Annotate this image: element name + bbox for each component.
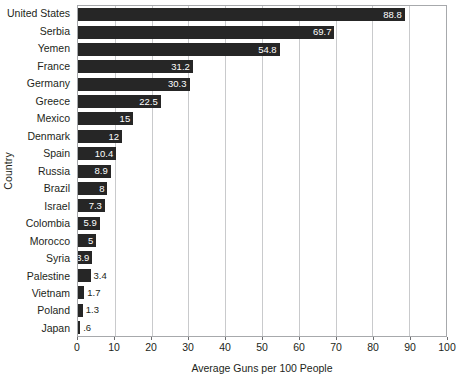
bar-row[interactable]: .6 (78, 319, 446, 336)
bar-chart: Country United StatesSerbiaYemenFranceGe… (0, 0, 460, 384)
bar-value-label: 3.9 (77, 253, 92, 263)
x-axis-tick-label: 0 (74, 341, 80, 353)
bar[interactable]: 69.7 (78, 26, 334, 39)
bar[interactable]: 8.9 (78, 165, 111, 178)
bar-value-label: 69.7 (313, 27, 335, 37)
bar-value-label: .6 (80, 323, 91, 333)
x-axis-tick-label: 80 (367, 341, 379, 353)
bar-value-label: 31.2 (171, 62, 193, 72)
bar[interactable]: 31.2 (78, 60, 193, 73)
bar[interactable]: 7.3 (78, 199, 105, 212)
x-axis-title: Average Guns per 100 People (77, 362, 447, 374)
bar-row[interactable]: 8 (78, 180, 446, 197)
category-label: Greece (16, 92, 74, 109)
x-axis-tick (188, 337, 189, 340)
bar[interactable]: 8 (78, 182, 107, 195)
category-label: Morocco (16, 232, 74, 249)
bar-row[interactable]: 10.4 (78, 145, 446, 162)
category-label: Mexico (16, 110, 74, 127)
bar-row[interactable]: 1.7 (78, 284, 446, 301)
x-axis-tick (447, 337, 448, 340)
bar-row[interactable]: 3.9 (78, 249, 446, 266)
y-axis-title: Country (0, 0, 16, 342)
bar-row[interactable]: 8.9 (78, 162, 446, 179)
bar-row[interactable]: 30.3 (78, 76, 446, 93)
category-label: Germany (16, 75, 74, 92)
bar[interactable]: 12 (78, 130, 122, 143)
bar-value-label: 88.8 (383, 10, 405, 20)
bar-row[interactable]: 69.7 (78, 23, 446, 40)
x-axis-tick-label: 20 (145, 341, 157, 353)
category-label: Russia (16, 162, 74, 179)
x-axis-tick-label: 90 (404, 341, 416, 353)
category-label: Denmark (16, 127, 74, 144)
bar[interactable]: 3.9 (78, 251, 92, 264)
bar-row[interactable]: 1.3 (78, 301, 446, 318)
bar-series: 88.869.754.831.230.322.5151210.48.987.35… (78, 6, 446, 336)
bar-row[interactable]: 5 (78, 232, 446, 249)
x-axis-title-text: Average Guns per 100 People (191, 362, 332, 374)
category-label: United States (16, 5, 74, 22)
bar-value-label: 10.4 (95, 149, 117, 159)
category-label: Japan (16, 319, 74, 336)
y-axis-title-text: Country (2, 152, 14, 189)
category-label: Serbia (16, 22, 74, 39)
bar[interactable]: 5.9 (78, 217, 100, 230)
category-label: France (16, 57, 74, 74)
bar-row[interactable]: 31.2 (78, 58, 446, 75)
bar-value-label: 15 (120, 114, 134, 124)
bar[interactable] (78, 286, 84, 299)
x-axis-tick-label: 70 (330, 341, 342, 353)
bar[interactable]: 54.8 (78, 43, 280, 56)
category-label: Palestine (16, 267, 74, 284)
category-label: Colombia (16, 215, 74, 232)
x-axis-tick (336, 337, 337, 340)
bar-value-label: 54.8 (258, 45, 280, 55)
bar-value-label: 1.7 (84, 288, 100, 298)
bar-value-label: 7.3 (89, 201, 105, 211)
x-axis-tick (225, 337, 226, 340)
bar[interactable]: 15 (78, 112, 133, 125)
bar-row[interactable]: 22.5 (78, 93, 446, 110)
x-axis-tick (373, 337, 374, 340)
x-axis: 0102030405060708090100 (77, 337, 447, 357)
plot-area: 88.869.754.831.230.322.5151210.48.987.35… (77, 5, 447, 337)
category-label: Israel (16, 197, 74, 214)
bar[interactable]: 30.3 (78, 78, 190, 91)
bar-row[interactable]: 54.8 (78, 41, 446, 58)
bar[interactable] (78, 321, 80, 334)
bar-row[interactable]: 12 (78, 128, 446, 145)
x-axis-tick (410, 337, 411, 340)
category-label: Spain (16, 145, 74, 162)
bar-value-label: 12 (109, 132, 123, 142)
x-axis-tick (299, 337, 300, 340)
bar[interactable] (78, 304, 83, 317)
bar[interactable]: 22.5 (78, 95, 161, 108)
bar-value-label: 1.3 (83, 305, 99, 315)
bar[interactable] (78, 269, 91, 282)
bar-row[interactable]: 5.9 (78, 215, 446, 232)
x-axis-tick-label: 60 (293, 341, 305, 353)
category-axis-labels: United StatesSerbiaYemenFranceGermanyGre… (16, 5, 74, 337)
bar-row[interactable]: 7.3 (78, 197, 446, 214)
category-label: Brazil (16, 180, 74, 197)
bar-value-label: 30.3 (168, 79, 190, 89)
bar[interactable]: 10.4 (78, 147, 116, 160)
bar-row[interactable]: 88.8 (78, 6, 446, 23)
bar-row[interactable]: 15 (78, 110, 446, 127)
x-axis-tick (151, 337, 152, 340)
bar-value-label: 3.4 (91, 271, 107, 281)
x-axis-tick-label: 50 (256, 341, 268, 353)
bar[interactable]: 88.8 (78, 8, 405, 21)
category-label: Poland (16, 302, 74, 319)
bar-value-label: 8.9 (95, 166, 111, 176)
bar-value-label: 5.9 (83, 218, 99, 228)
x-axis-tick (114, 337, 115, 340)
bar-value-label: 5 (88, 236, 96, 246)
x-axis-tick-label: 100 (438, 341, 456, 353)
bar-row[interactable]: 3.4 (78, 267, 446, 284)
x-axis-tick (77, 337, 78, 340)
x-axis-tick-label: 40 (219, 341, 231, 353)
bar-value-label: 8 (99, 184, 107, 194)
bar[interactable]: 5 (78, 234, 96, 247)
